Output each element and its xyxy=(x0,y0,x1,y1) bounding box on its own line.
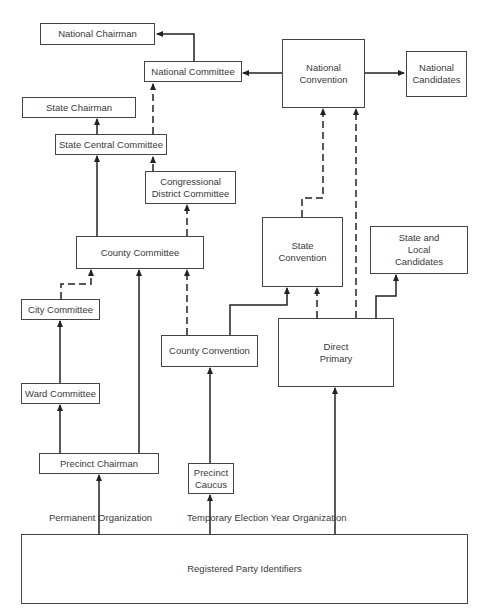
node-county-committee: County Committee xyxy=(76,236,204,269)
node-state-central-committee: State Central Committee xyxy=(55,134,167,155)
node-direct-primary: Direct Primary xyxy=(278,318,394,387)
node-national-convention: National Convention xyxy=(282,39,365,108)
node-state-local-candidates: State and Local Candidates xyxy=(370,226,468,274)
label-permanent-organization: Permanent Organization xyxy=(49,512,152,523)
node-state-chairman: State Chairman xyxy=(22,97,136,118)
node-precinct-chairman: Precinct Chairman xyxy=(39,453,159,474)
node-national-committee: National Committee xyxy=(144,61,242,82)
node-city-committee: City Committee xyxy=(21,299,100,320)
node-national-chairman: National Chairman xyxy=(40,23,155,45)
node-registered-party-identifiers: Registered Party Identifiers xyxy=(21,534,468,604)
label-temporary-organization: Temporary Election Year Organization xyxy=(187,512,346,523)
node-county-convention: County Convention xyxy=(161,335,258,367)
node-congressional-district-committee: Congressional District Committee xyxy=(145,171,236,204)
node-national-candidates: National Candidates xyxy=(406,51,467,97)
node-state-convention: State Convention xyxy=(262,217,343,287)
node-precinct-caucus: Precinct Caucus xyxy=(188,463,234,494)
node-ward-committee: Ward Committee xyxy=(21,383,100,404)
